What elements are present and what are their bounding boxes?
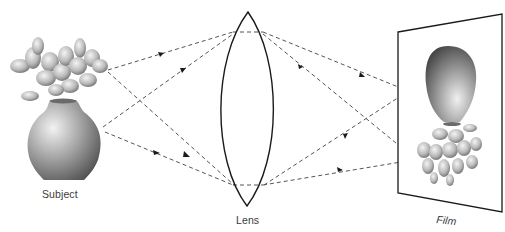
arrow-icon xyxy=(180,68,186,73)
subject-vase xyxy=(28,100,101,180)
optics-diagram: Subject Lens Film xyxy=(0,0,505,232)
subject-vase-with-flowers xyxy=(10,37,108,180)
film-plane xyxy=(398,14,502,212)
ray-bottom-to-lens-bottom xyxy=(105,132,233,185)
ray-top-to-lens-top xyxy=(108,32,233,70)
subject-label: Subject xyxy=(42,188,78,200)
light-rays xyxy=(103,32,413,185)
ray-arrowheads xyxy=(153,52,365,172)
ray-bottom-to-lens-top xyxy=(103,34,233,127)
lens-label: Lens xyxy=(236,214,259,226)
subject-flowers xyxy=(10,37,108,101)
ray-lens-bottom-to-film-lower xyxy=(263,160,413,185)
ray-top-to-lens-bottom xyxy=(108,72,234,185)
ray-lens-top-to-film-upper xyxy=(263,32,413,93)
biconvex-lens xyxy=(221,12,274,206)
ray-lens-top-to-film-lower xyxy=(263,34,413,157)
film-label: Film xyxy=(436,213,457,227)
arrow-icon xyxy=(183,151,190,157)
arrow-icon xyxy=(343,133,348,139)
arrow-icon xyxy=(337,167,343,172)
